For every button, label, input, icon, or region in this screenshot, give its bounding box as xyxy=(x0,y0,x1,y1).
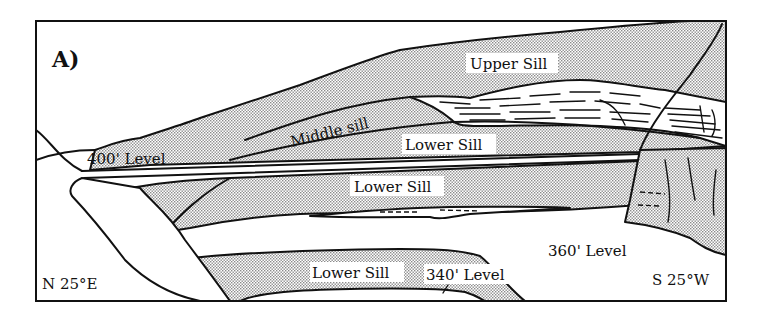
label-lower-sill-bottom: Lower Sill xyxy=(312,264,390,282)
orientation-right: S 25°W xyxy=(652,271,710,289)
panel-label: A) xyxy=(51,46,79,72)
label-400-level: 400' Level xyxy=(87,150,166,168)
label-lower-sill-upper: Lower Sill xyxy=(405,136,483,154)
lower-sill-middle-body xyxy=(120,161,640,232)
label-360-level: 360' Level xyxy=(548,242,627,260)
label-340-level: 340' Level xyxy=(426,266,505,284)
right-block xyxy=(625,148,726,255)
label-upper-sill: Upper Sill xyxy=(470,55,548,73)
geologic-cross-section: A) Upper Sill Middle sill Lower Sill 400… xyxy=(0,0,760,320)
label-lower-sill-middle: Lower Sill xyxy=(354,178,432,196)
orientation-left: N 25°E xyxy=(42,275,97,293)
cross-section-svg: A) Upper Sill Middle sill Lower Sill 400… xyxy=(0,0,760,320)
